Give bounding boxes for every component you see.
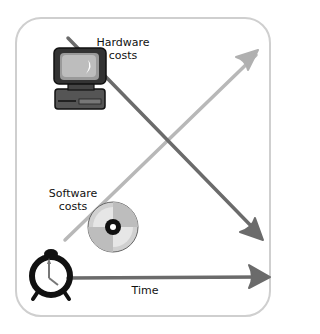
software-label-line2: costs [38, 200, 108, 213]
hardware-label-line1: Hardware [88, 36, 158, 49]
time-label: Time [125, 284, 165, 297]
time-arrow [68, 265, 270, 288]
software-label-line1: Software [38, 187, 108, 200]
hardware-costs-label: Hardware costs [88, 36, 158, 62]
software-costs-label: Software costs [38, 187, 108, 213]
alarm-clock-icon [32, 249, 70, 299]
hardware-label-line2: costs [88, 49, 158, 62]
